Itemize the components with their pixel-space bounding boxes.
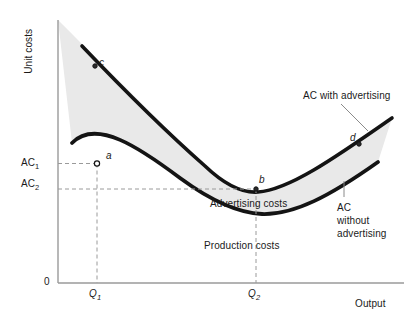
callout-ac-without-line-3: advertising [337, 227, 386, 240]
cost-curve-figure: Unit costs Output 0 Q1 Q2 AC1 AC2 a b c … [0, 0, 413, 324]
data-point-c [93, 64, 97, 68]
data-point-b [254, 187, 258, 191]
x-tick-q1: Q1 [89, 288, 101, 302]
y-tick-ac1-text: AC [21, 157, 35, 168]
y-axis-title: Unit costs [23, 16, 36, 86]
origin-label: 0 [44, 276, 50, 289]
point-label-a: a [106, 150, 112, 163]
x-tick-q2-subscript: 2 [256, 293, 260, 302]
leader-line-ac-with-advertising [341, 104, 368, 131]
x-tick-q1-subscript: 1 [97, 293, 101, 302]
point-label-d: d [350, 132, 356, 145]
point-label-b: b [259, 174, 265, 187]
y-tick-ac2-subscript: 2 [35, 183, 39, 192]
y-tick-ac1-subscript: 1 [35, 162, 39, 171]
y-tick-ac2-text: AC [21, 178, 35, 189]
y-tick-ac2: AC2 [21, 178, 39, 192]
x-tick-q2-text: Q [248, 288, 256, 299]
x-tick-q2: Q2 [248, 288, 260, 302]
callout-ac-without-advertising: AC without advertising [337, 201, 386, 240]
callout-ac-without-line-2: without [337, 214, 386, 227]
chart-canvas [0, 0, 413, 324]
callout-ac-with-advertising: AC with advertising [303, 90, 391, 103]
data-point-a [94, 161, 99, 166]
data-point-d [357, 142, 361, 146]
region-label-advertising-costs: Advertising costs [210, 198, 287, 211]
x-axis-title: Output [355, 298, 386, 311]
y-tick-ac1: AC1 [21, 157, 39, 171]
callout-ac-without-line-1: AC [337, 201, 386, 214]
region-label-production-costs: Production costs [204, 240, 280, 253]
x-tick-q1-text: Q [89, 288, 97, 299]
point-label-c: c [99, 57, 104, 70]
